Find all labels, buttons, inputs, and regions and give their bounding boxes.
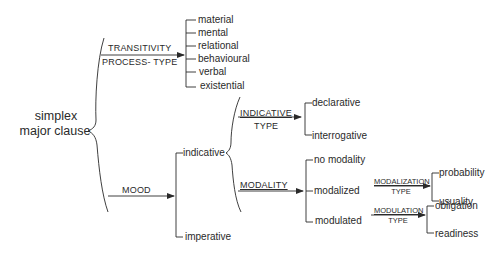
modulation-type-system-label: MODULATION: [374, 207, 422, 215]
option-interrogative: interrogative: [312, 130, 367, 141]
modalization-type-system-label-2: TYPE: [374, 188, 428, 196]
modalization-type-system-label: MODALIZATION: [374, 178, 428, 186]
modulation-type-bracket-icon: [427, 206, 434, 233]
option-obligation: obligation: [435, 200, 478, 211]
option-declarative: declarative: [312, 97, 360, 108]
option-indicative: indicative: [183, 147, 225, 158]
mood-bracket-icon: [176, 153, 183, 237]
modalization-type-bracket-icon: [432, 173, 439, 201]
transitivity-system-label: TRANSITIVITY: [108, 43, 171, 53]
modality-system-label: MODALITY: [240, 180, 288, 190]
root-label-major-clause: major clause: [18, 124, 92, 138]
indicative-brace-icon: [226, 97, 241, 212]
option-modalized: modalized: [314, 185, 360, 196]
indicative-type-bracket-icon: [305, 103, 312, 135]
modulation-type-system-label-2: TYPE: [374, 217, 422, 225]
option-material: material: [198, 14, 234, 25]
option-relational: relational: [198, 40, 239, 51]
indicative-type-system-label-2: TYPE: [254, 121, 278, 131]
option-readiness: readiness: [435, 228, 478, 239]
mood-system-label: MOOD: [122, 185, 151, 195]
option-imperative: imperative: [185, 231, 231, 242]
transitivity-bracket-icon: [186, 20, 196, 87]
indicative-type-system-label: INDICATIVE: [240, 108, 292, 118]
option-probability: probability: [439, 167, 485, 178]
option-mental: mental: [198, 27, 228, 38]
process-type-system-label: PROCESS- TYPE: [102, 57, 177, 67]
option-no-modality: no modality: [314, 154, 365, 165]
option-behavioural: behavioural: [198, 53, 250, 64]
option-verbal: verbal: [199, 66, 226, 77]
option-modulated: modulated: [315, 215, 362, 226]
option-existential: existential: [200, 80, 244, 91]
root-label-simplex: simplex: [31, 109, 81, 123]
